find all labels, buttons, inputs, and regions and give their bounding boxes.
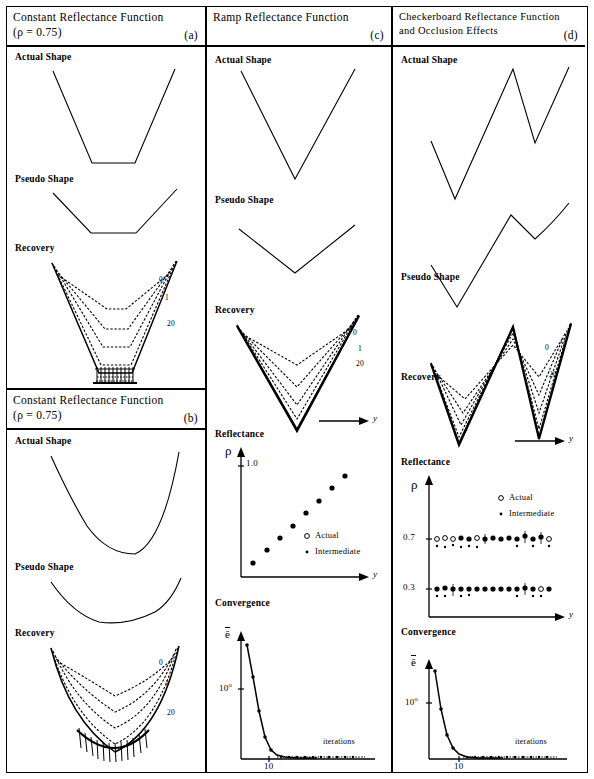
panel-b-header: Constant Reflectance Function (ρ = 0.75)… bbox=[7, 390, 205, 430]
panel-c-rho-symbol: ρ bbox=[225, 443, 232, 459]
figure-page: Constant Reflectance Function (ρ = 0.75)… bbox=[0, 0, 594, 779]
panel-d-reflectance-row-high bbox=[435, 531, 552, 548]
panel-c-label: (c) bbox=[370, 28, 384, 43]
panel-b: Constant Reflectance Function (ρ = 0.75)… bbox=[7, 390, 205, 772]
panel-a-label: (a) bbox=[184, 28, 198, 43]
panel-d-actual-shape-plot bbox=[431, 67, 569, 199]
panel-c-convergence-y-tick-exp: o bbox=[228, 681, 231, 688]
panel-a-iter-label-0: 0 bbox=[159, 275, 163, 284]
panel-b-iter-label-20: 20 bbox=[167, 708, 175, 717]
panel-d-rho-tick-low: 0.3 bbox=[403, 582, 415, 592]
panel-d-rho-tick-high: 0.7 bbox=[403, 532, 415, 542]
panel-d-title-line1: Checkerboard Reflectance Function bbox=[399, 10, 579, 24]
panel-c-convergence-x-label: iterations bbox=[323, 737, 355, 746]
panel-c-body: Actual Shape Pseudo Shape Recovery Refle… bbox=[207, 47, 391, 770]
panel-b-title-line2: (ρ = 0.75) bbox=[13, 408, 199, 423]
panel-c-recovery-y-label: y bbox=[373, 413, 377, 423]
panel-d-convergence-x-tick: 10 bbox=[454, 761, 463, 771]
panel-d-plots bbox=[393, 47, 583, 770]
panel-a-pseudo-shape-plot bbox=[53, 189, 177, 233]
panel-b-body: Actual Shape Pseudo Shape Recovery bbox=[7, 430, 205, 770]
panel-d-recovery-plot bbox=[431, 323, 571, 445]
panel-d-label: (d) bbox=[564, 28, 578, 43]
panel-c-iter-label-0: 0 bbox=[353, 328, 357, 337]
panel-c-pseudo-shape-plot bbox=[239, 225, 355, 273]
column-middle: Ramp Reflectance Function (c) Actual Sha… bbox=[207, 7, 393, 772]
panel-c-ebar: ē bbox=[225, 627, 230, 640]
column-right: Checkerboard Reflectance Function and Oc… bbox=[393, 7, 585, 772]
panel-c-iter-label-20: 20 bbox=[356, 359, 364, 368]
panel-d-reflectance-row-low bbox=[434, 583, 551, 597]
panel-a: Constant Reflectance Function (ρ = 0.75)… bbox=[7, 7, 205, 390]
panel-d-convergence-x-label: iterations bbox=[515, 737, 547, 746]
panel-d-convergence-y-tick-exp: o bbox=[414, 695, 417, 702]
panel-d-header: Checkerboard Reflectance Function and Oc… bbox=[393, 7, 585, 47]
panel-d-iter-label-20: 20 bbox=[549, 370, 557, 379]
panel-d-convergence-y-tick: 10o bbox=[405, 695, 418, 707]
panel-a-actual-shape-plot bbox=[53, 69, 175, 163]
panel-c-actual-shape-plot bbox=[241, 69, 355, 179]
panel-c-legend-actual: Actual bbox=[315, 530, 339, 540]
panel-a-title-line1: Constant Reflectance Function bbox=[13, 10, 199, 25]
panel-c-y-axis-arrow bbox=[319, 417, 369, 425]
panel-b-iter-label-1: 1 bbox=[165, 679, 169, 688]
panel-d-legend-actual: Actual bbox=[509, 492, 533, 502]
panel-a-header: Constant Reflectance Function (ρ = 0.75)… bbox=[7, 7, 205, 47]
panel-c-convergence-y-tick: 10o bbox=[219, 681, 232, 693]
panel-c-recovery-plot bbox=[237, 315, 359, 431]
panel-a-iter-label-1: 1 bbox=[165, 293, 169, 302]
panel-c-reflectance-y-label: y bbox=[373, 569, 377, 579]
panel-b-plots bbox=[7, 430, 205, 770]
panel-c-iter-label-1: 1 bbox=[358, 344, 362, 353]
panel-d-recovery-y-label: y bbox=[569, 433, 573, 443]
panel-a-iter-label-20: 20 bbox=[167, 319, 175, 328]
panel-d-legend-intermediate: Intermediate bbox=[509, 508, 554, 518]
panel-c-convergence-y-symbol: ē bbox=[225, 627, 230, 640]
panel-c-convergence-x-tick: 10 bbox=[264, 761, 273, 771]
panel-d-rho-symbol: ρ bbox=[411, 477, 418, 493]
panel-c-header: Ramp Reflectance Function (c) bbox=[207, 7, 391, 47]
panel-d-iter-label-0: 0 bbox=[545, 343, 549, 352]
panel-d-title-line2: and Occlusion Effects bbox=[399, 24, 579, 38]
panel-a-plots bbox=[7, 47, 205, 388]
panel-b-title-line1: Constant Reflectance Function bbox=[13, 393, 199, 408]
column-left: Constant Reflectance Function (ρ = 0.75)… bbox=[7, 7, 207, 772]
panel-d-reflectance-plot bbox=[425, 475, 565, 621]
panel-c-title-line1: Ramp Reflectance Function bbox=[213, 10, 385, 25]
panel-b-label: (b) bbox=[184, 411, 198, 426]
panel-d-pseudo-shape-plot bbox=[431, 203, 569, 307]
panel-b-iter-label-0: 0 bbox=[159, 658, 163, 667]
panel-a-title-line2: (ρ = 0.75) bbox=[13, 25, 199, 40]
panel-c-rho-tick-1: 1.0 bbox=[246, 458, 258, 468]
panel-b-pseudo-shape-plot bbox=[51, 578, 181, 623]
panel-d: Checkerboard Reflectance Function and Oc… bbox=[393, 7, 585, 772]
panel-d-reflectance-y-label: y bbox=[569, 609, 573, 619]
panel-a-body: Actual Shape Pseudo Shape Recovery bbox=[7, 47, 205, 388]
panel-d-body: Actual Shape Pseudo Shape Recovery Refle… bbox=[393, 47, 585, 770]
panel-c-plots bbox=[207, 47, 391, 770]
figure-frame: Constant Reflectance Function (ρ = 0.75)… bbox=[6, 6, 588, 773]
panel-d-convergence-y-symbol: ē bbox=[411, 655, 416, 668]
panel-c: Ramp Reflectance Function (c) Actual Sha… bbox=[207, 7, 391, 772]
panel-d-convergence-plot bbox=[425, 659, 567, 762]
panel-c-legend-intermediate: Intermediate bbox=[315, 546, 360, 556]
panel-d-ebar: ē bbox=[411, 655, 416, 668]
panel-b-actual-shape-plot bbox=[51, 452, 179, 554]
